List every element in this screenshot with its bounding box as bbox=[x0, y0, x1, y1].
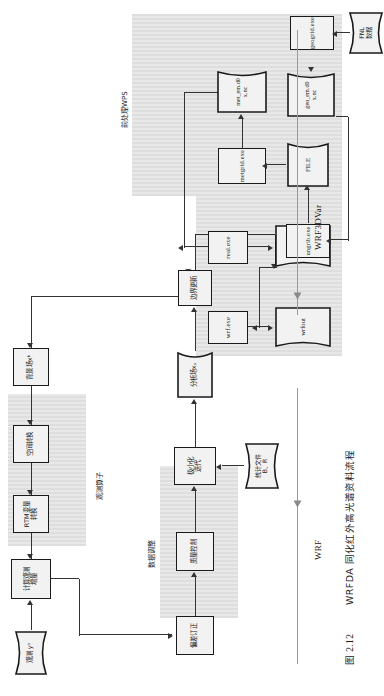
arrowhead-metem-to-real bbox=[178, 245, 183, 251]
conn-metem-to-real bbox=[184, 246, 208, 247]
conn-geoem-up-h bbox=[348, 117, 349, 241]
node-real-exe: real.exe bbox=[208, 231, 248, 264]
arrowhead-bias-to-qc bbox=[191, 572, 197, 577]
conn-model-to-bg-h bbox=[31, 296, 32, 348]
stage-label-wrf: WRF bbox=[313, 540, 323, 560]
node-met-em-label: met_em.d0 x.nc bbox=[216, 70, 268, 114]
conn-fnl-up bbox=[336, 32, 350, 33]
node-observation-label: 观测 yᵒ bbox=[14, 630, 48, 676]
conn-calc-down-h bbox=[79, 579, 80, 636]
label-obs-operator: 观测算子 bbox=[94, 472, 104, 500]
node-stats-file-label: 统计文件 B、R bbox=[244, 442, 280, 490]
conn-geoem-to-ungrib bbox=[330, 239, 348, 240]
arrowhead-ungrib-to-file bbox=[304, 185, 310, 190]
node-space-convert-label: 空间转换 bbox=[27, 431, 34, 458]
stage-arrow-wrf bbox=[294, 501, 302, 508]
node-real-exe-label: real.exe bbox=[224, 235, 231, 259]
node-geo-em-label: geo_em.d0 x.nc bbox=[286, 72, 336, 118]
conn-metem-up-v bbox=[184, 92, 220, 93]
node-bias-correct: 偏差订正 bbox=[176, 616, 214, 655]
arrowhead-qc-to-min bbox=[191, 486, 197, 491]
arrowhead-geoem-to-ungrib bbox=[326, 238, 331, 244]
node-boundary-update: 边界更新 bbox=[178, 270, 212, 306]
node-rtm-convert: RTM变量 转换 bbox=[13, 495, 49, 533]
node-wrf-exe: wrf.exe bbox=[208, 311, 248, 344]
conn-calc-down-v bbox=[51, 578, 79, 579]
conn-bu-to-wrfinput-h bbox=[195, 234, 196, 270]
node-geo-em: geo_em.d0 x.nc bbox=[286, 72, 336, 118]
conn-metgrid-to-metem bbox=[242, 118, 243, 148]
node-geogrid-exe-label: geogrid.exe bbox=[308, 16, 315, 50]
node-wrfout: wrfout bbox=[274, 306, 332, 348]
node-metgrid-exe: metgrid.exe bbox=[218, 148, 266, 184]
node-quality-control-label: 质量控制 bbox=[191, 538, 198, 565]
node-minimization-label: 极小化 迭代 bbox=[188, 456, 202, 477]
arrowhead-file-to-metgrid bbox=[262, 163, 267, 169]
conn-geoem-up-v bbox=[336, 116, 348, 117]
node-space-convert: 空间转换 bbox=[13, 425, 49, 463]
conn-wrfinput-to-wrfexe-h bbox=[259, 268, 260, 328]
arrowhead-bg-to-space bbox=[27, 420, 33, 425]
conn-to-bias-v bbox=[79, 634, 172, 635]
conn-min-to-analysis bbox=[195, 403, 196, 447]
node-fnl-data-label: FNL 数据 bbox=[348, 11, 384, 55]
arrowhead-metgrid-to-metem bbox=[238, 114, 244, 119]
node-ungrib-exe: ungrib.exe bbox=[286, 224, 330, 258]
conn-ungrib-to-file bbox=[308, 188, 309, 223]
node-metgrid-exe-label: metgrid.exe bbox=[238, 149, 245, 184]
figure-caption-number: 图 2.12 bbox=[342, 634, 356, 665]
arrowhead-stats-to-min bbox=[216, 464, 221, 470]
conn-wrfinput-to-wrfexe-v bbox=[259, 267, 277, 268]
node-met-em: met_em.d0 x.nc bbox=[216, 70, 268, 114]
figure-caption-text: WRFDA 同化红外高光谱资料流程 bbox=[342, 450, 356, 605]
label-preprocess-wps: 前处理WPS bbox=[119, 91, 129, 128]
node-calc-innovation: 计算观测 增量 bbox=[11, 559, 51, 599]
node-ungrib-exe-label: ungrib.exe bbox=[304, 225, 311, 256]
arrowhead-real-to-wrfinput bbox=[268, 245, 273, 251]
arrowhead-rtm-to-calc bbox=[27, 554, 33, 559]
arrowhead-wrfinput-to-wrfexe bbox=[252, 325, 257, 331]
node-quality-control: 质量控制 bbox=[176, 532, 214, 571]
stage-line-wrf bbox=[297, 388, 298, 664]
arrowhead-min-to-analysis bbox=[191, 399, 197, 404]
arrowhead-obs-to-calc bbox=[27, 600, 33, 605]
label-data-adjust: 数据调整 bbox=[146, 540, 156, 568]
node-boundary-update-label: 边界更新 bbox=[191, 275, 198, 302]
conn-metem-to-real-h bbox=[184, 93, 185, 248]
node-wrf-exe-label: wrf.exe bbox=[224, 316, 231, 339]
node-analysis-field: 分析场xₐ bbox=[176, 351, 214, 399]
conn-qc-to-min bbox=[195, 490, 196, 532]
arrowhead-geogrid-to-geoem bbox=[308, 67, 314, 72]
arrowhead-analysis-to-bu bbox=[191, 307, 197, 312]
stage-label-wrf3dvar: WRF3DVar bbox=[313, 205, 323, 250]
node-bias-correct-label: 偏差订正 bbox=[191, 622, 198, 649]
stage-arrow-wrf3dvar bbox=[294, 293, 302, 300]
arrowhead-space-to-rtm bbox=[27, 490, 33, 495]
arrowhead-fnl-to-geogrid bbox=[332, 31, 337, 37]
node-stats-file: 统计文件 B、R bbox=[244, 442, 280, 490]
arrowhead-to-bias bbox=[168, 633, 173, 639]
node-fnl-data-shape: FNL 数据 bbox=[348, 11, 384, 55]
node-observation: 观测 yᵒ bbox=[14, 630, 48, 676]
conn-real-to-wrfinput bbox=[248, 246, 270, 247]
conn-bg-to-space bbox=[31, 385, 32, 425]
stage-line-wrf3dvar bbox=[297, 30, 298, 315]
node-analysis-field-label: 分析场xₐ bbox=[176, 351, 214, 399]
node-rtm-convert-label: RTM变量 转换 bbox=[24, 500, 38, 528]
conn-obs-to-calc bbox=[31, 604, 32, 630]
node-file-label: FILE bbox=[286, 142, 330, 188]
node-file: FILE bbox=[286, 142, 330, 188]
node-background-label: 背景场xᵇ bbox=[27, 353, 34, 381]
arrowhead-model-to-bg bbox=[27, 343, 33, 348]
arrowhead-wrfexe-to-wrfout bbox=[268, 325, 273, 331]
node-wrfout-label: wrfout bbox=[274, 306, 332, 348]
conn-bias-to-qc bbox=[195, 576, 196, 616]
node-calc-innovation-label: 计算观测 增量 bbox=[24, 566, 38, 593]
conn-analysis-to-bu bbox=[195, 311, 196, 351]
node-minimization: 极小化 迭代 bbox=[174, 447, 216, 485]
conn-file-to-metgrid bbox=[266, 164, 286, 165]
conn-stats-to-min bbox=[222, 465, 244, 466]
node-background: 背景场xᵇ bbox=[13, 348, 49, 386]
